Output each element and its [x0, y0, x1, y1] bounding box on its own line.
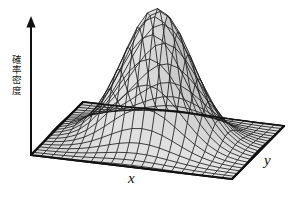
- vertical-axis-arrowhead: [26, 16, 35, 28]
- gaussian-surface-plot: [0, 0, 291, 203]
- axis-label-y: y: [264, 152, 271, 169]
- vertical-axis: [26, 16, 35, 155]
- axis-label-x: x: [128, 170, 135, 187]
- axis-label-vertical: 確率密度: [9, 55, 25, 96]
- surface-plot-figure: 確率密度 x y: [0, 0, 291, 203]
